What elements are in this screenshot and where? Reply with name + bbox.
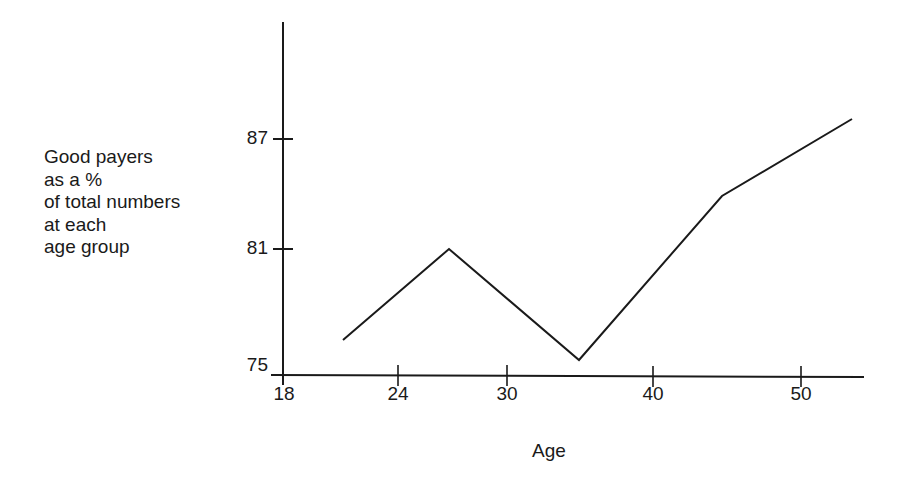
chart-plot-area [0,0,909,490]
data-series-line [343,119,852,360]
x-axis-line [271,375,864,377]
